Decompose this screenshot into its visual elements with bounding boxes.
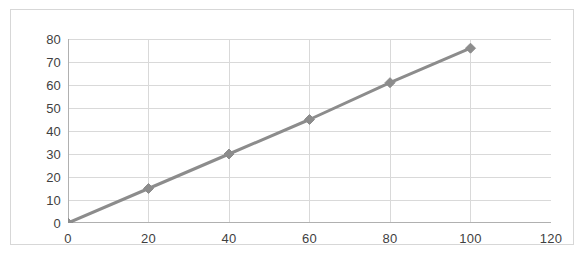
chart-frame: 80 70 60 50 40 30 20 10 0 0 20 (10, 9, 574, 245)
y-axis-tick-label: 50 (31, 102, 61, 115)
y-axis-tick-label: 30 (31, 148, 61, 161)
chart-plot-svg (68, 39, 551, 223)
y-axis-tick-label: 10 (31, 194, 61, 207)
x-axis-tick-label: 60 (302, 232, 317, 245)
x-axis-tick-label: 100 (459, 232, 481, 245)
x-axis-tick-label: 80 (383, 232, 398, 245)
x-axis-tick-label: 20 (141, 232, 156, 245)
y-axis-tick-label: 20 (31, 171, 61, 184)
x-axis-tick-label: 120 (540, 232, 562, 245)
x-axis-tick-label: 0 (64, 232, 71, 245)
y-axis-tick-label: 60 (31, 79, 61, 92)
y-axis-tick-label: 40 (31, 125, 61, 138)
x-axis-tick-labels: 0 20 40 60 80 100 120 (68, 232, 551, 250)
y-axis-tick-label: 0 (31, 217, 61, 230)
plot-area (68, 39, 551, 223)
y-axis-tick-label: 80 (31, 33, 61, 46)
y-axis-tick-label: 70 (31, 56, 61, 69)
y-axis-tick-labels: 80 70 60 50 40 30 20 10 0 (29, 39, 61, 223)
x-axis-tick-label: 40 (222, 232, 237, 245)
chart-screenshot: 80 70 60 50 40 30 20 10 0 0 20 (0, 0, 586, 256)
series-line-path (68, 48, 471, 223)
